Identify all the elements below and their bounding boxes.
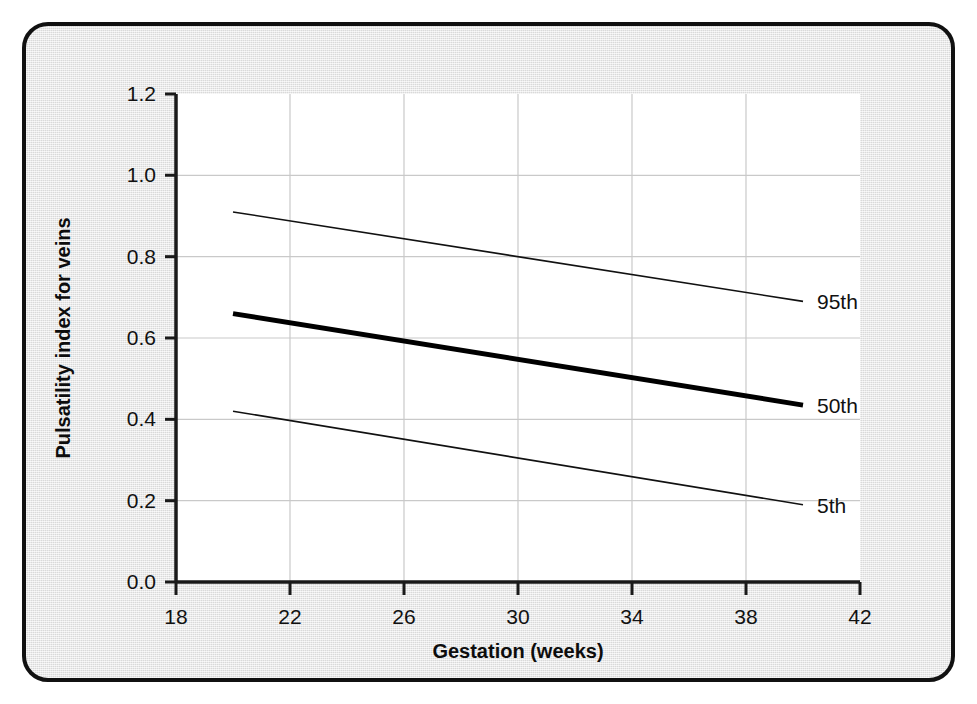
series-label-5th: 5th xyxy=(817,494,846,517)
x-tick-label: 18 xyxy=(164,605,187,628)
y-tick-label: 1.2 xyxy=(127,82,156,105)
x-tick-label: 38 xyxy=(734,605,757,628)
x-axis-title: Gestation (weeks) xyxy=(432,640,603,662)
x-axis-ticks: 18222630343842 xyxy=(164,582,871,628)
series-label-50th: 50th xyxy=(817,394,858,417)
x-tick-label: 30 xyxy=(506,605,529,628)
y-tick-label: 0.6 xyxy=(127,326,156,349)
pulsatility-index-line-chart: 0.00.20.40.60.81.01.2 18222630343842 95t… xyxy=(26,26,955,682)
y-tick-label: 1.0 xyxy=(127,163,156,186)
y-tick-label: 0.2 xyxy=(127,489,156,512)
series-label-95th: 95th xyxy=(817,290,858,313)
y-axis-title: Pulsatility index for veins xyxy=(52,217,74,458)
y-tick-label: 0.4 xyxy=(127,407,157,430)
x-tick-label: 34 xyxy=(620,605,644,628)
y-tick-label: 0.8 xyxy=(127,245,156,268)
x-tick-label: 26 xyxy=(392,605,415,628)
y-tick-label: 0.0 xyxy=(127,570,156,593)
x-tick-label: 22 xyxy=(278,605,301,628)
x-tick-label: 42 xyxy=(848,605,871,628)
y-axis-ticks: 0.00.20.40.60.81.01.2 xyxy=(127,82,176,593)
figure-card: 0.00.20.40.60.81.01.2 18222630343842 95t… xyxy=(22,22,955,682)
